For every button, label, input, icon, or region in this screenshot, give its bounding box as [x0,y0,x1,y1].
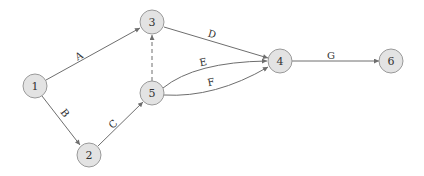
node-4-label: 4 [277,55,284,68]
edge-c: C [98,102,143,146]
node-5-label: 5 [149,87,156,100]
edge-e-line [163,61,267,88]
edge-f: F [164,67,268,95]
edge-g-label: G [327,50,335,61]
node-3: 3 [140,10,164,34]
edge-f-line [164,67,268,95]
node-3-label: 3 [149,16,156,29]
edge-f-label: F [206,76,215,88]
edge-d-label: D [207,28,218,41]
node-4: 4 [268,49,292,73]
edge-d: D [164,27,268,58]
edge-e-label: E [198,56,207,68]
edges: A B C D E F G [42,27,379,146]
edge-b: B [42,96,80,145]
edge-b-line [42,96,80,145]
edge-b-label: B [58,107,71,120]
edge-c-label: C [106,117,119,130]
node-6-label: 6 [388,55,395,68]
edge-a: A [46,28,140,80]
node-6: 6 [379,49,403,73]
edge-a-line [46,28,140,80]
node-1-label: 1 [32,80,39,93]
edge-g: G [292,50,379,62]
network-diagram: A B C D E F G [0,0,424,176]
edge-e: E [163,56,267,88]
node-5: 5 [140,81,164,105]
edge-a-label: A [72,49,85,63]
node-2: 2 [77,143,101,167]
edge-c-line [98,102,143,146]
node-2-label: 2 [86,149,93,162]
node-1: 1 [23,74,47,98]
